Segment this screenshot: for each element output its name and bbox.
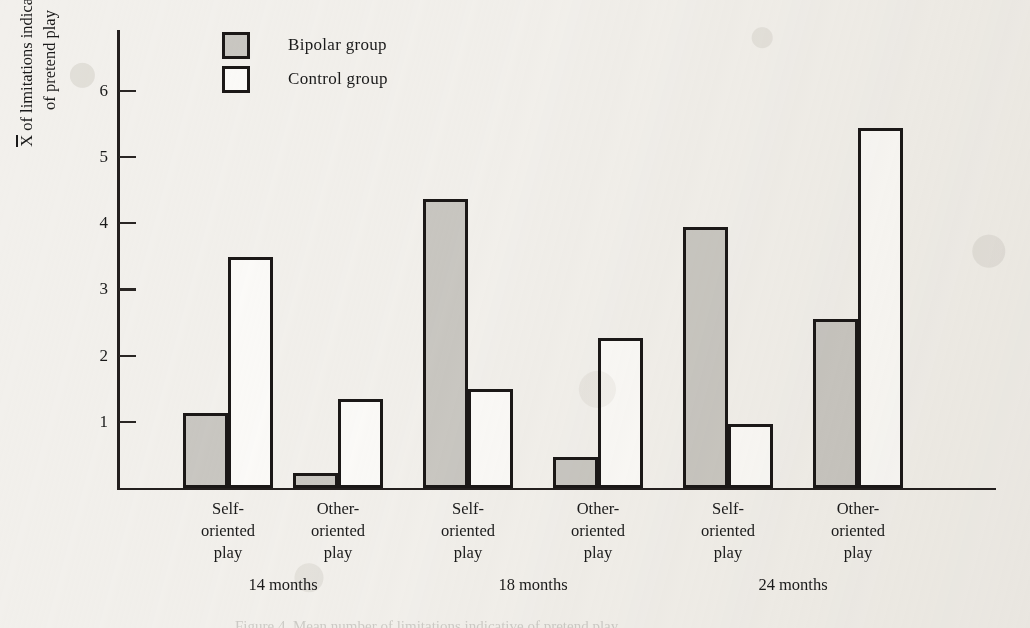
bar-bipolar-2 (293, 473, 338, 488)
x-axis-category-label-2-line-2: oriented (278, 520, 398, 542)
bar-bipolar-1 (183, 413, 228, 488)
bar-bipolar-3 (423, 199, 468, 488)
x-axis-category-label-2-line-3: play (278, 542, 398, 564)
x-axis-category-label-6-line-3: play (798, 542, 918, 564)
x-axis-category-label-4-line-3: play (538, 542, 658, 564)
x-axis-group-label-24-months: 24 months (703, 575, 883, 595)
bar-control-3 (468, 389, 513, 488)
legend-swatch-control-icon (222, 66, 250, 93)
bar-bipolar-4 (553, 457, 598, 488)
bar-control-6 (858, 128, 903, 488)
x-axis-category-label-3: Self-orientedplay (408, 498, 528, 563)
x-axis-category-label-1-line-3: play (168, 542, 288, 564)
x-axis-category-label-1-line-1: Self- (168, 498, 288, 520)
bar-control-2 (338, 399, 383, 488)
x-axis-category-label-3-line-1: Self- (408, 498, 528, 520)
x-axis-category-label-6-line-1: Other- (798, 498, 918, 520)
bar-bipolar-6 (813, 319, 858, 488)
bar-bipolar-5 (683, 227, 728, 488)
x-axis-category-label-2-line-1: Other- (278, 498, 398, 520)
cropped-caption-text: Figure 4. Mean number of limitations ind… (235, 618, 795, 628)
x-axis-category-label-1: Self-orientedplay (168, 498, 288, 563)
x-axis-category-label-3-line-2: oriented (408, 520, 528, 542)
x-axis-category-label-6-line-2: oriented (798, 520, 918, 542)
x-axis-category-label-3-line-3: play (408, 542, 528, 564)
legend-label-control: Control group (288, 69, 388, 89)
x-axis-category-label-5-line-2: oriented (668, 520, 788, 542)
x-axis-group-label-14-months: 14 months (193, 575, 373, 595)
x-axis-category-label-5-line-3: play (668, 542, 788, 564)
bars-layer (0, 0, 1030, 488)
x-axis-category-label-6: Other-orientedplay (798, 498, 918, 563)
x-axis-group-label-18-months: 18 months (443, 575, 623, 595)
x-axis-category-label-2: Other-orientedplay (278, 498, 398, 563)
x-axis-category-label-4: Other-orientedplay (538, 498, 658, 563)
x-axis-category-label-5: Self-orientedplay (668, 498, 788, 563)
bar-chart-figure: X of limitations indicative of pretend p… (0, 0, 1030, 628)
bar-control-4 (598, 338, 643, 488)
legend-label-bipolar: Bipolar group (288, 35, 387, 55)
x-axis-category-label-1-line-2: oriented (168, 520, 288, 542)
legend-item-control: Control group (222, 62, 388, 96)
bar-control-5 (728, 424, 773, 488)
bar-control-1 (228, 257, 273, 488)
x-axis-category-label-5-line-1: Self- (668, 498, 788, 520)
legend-swatch-bipolar-icon (222, 32, 250, 59)
legend-item-bipolar: Bipolar group (222, 28, 388, 62)
x-axis-category-label-4-line-1: Other- (538, 498, 658, 520)
chart-legend: Bipolar group Control group (222, 28, 388, 96)
x-axis-category-label-4-line-2: oriented (538, 520, 658, 542)
